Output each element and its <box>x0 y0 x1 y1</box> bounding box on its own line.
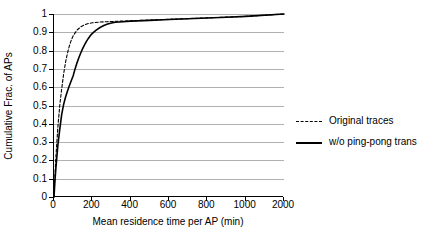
y-axis-tick-label-text: 0.3 <box>0 137 47 147</box>
legend-item: w/o ping-pong trans <box>296 131 421 152</box>
dashed-line-icon <box>296 121 322 122</box>
chart-figure: Cumulative Frac. of APs 00.10.20.30.40.5… <box>0 0 423 243</box>
x-axis-tick-label: 400 <box>121 200 138 210</box>
x-axis-tick-label: 800 <box>198 200 215 210</box>
x-axis-tick-mark <box>206 197 207 201</box>
x-axis-tick-mark <box>53 197 54 201</box>
x-axis-tick-mark <box>130 197 131 201</box>
x-axis-tick-label: 600 <box>160 200 177 210</box>
x-axis-tick-mark <box>245 197 246 201</box>
x-axis-tick-label: 2000 <box>272 200 294 210</box>
chart-legend: Original tracesw/o ping-pong trans <box>296 110 421 152</box>
legend-item-label: Original traces <box>329 115 393 126</box>
plot-area <box>53 14 283 197</box>
x-axis-tick-label: 1000 <box>234 200 256 210</box>
y-axis-tick-label-text: 0.8 <box>0 46 47 56</box>
y-axis-tick-label-text: 1 <box>0 9 47 19</box>
legend-line-swatch <box>296 116 322 126</box>
series-line-2 <box>54 14 284 197</box>
legend-line-swatch <box>296 137 322 147</box>
x-axis-tick-mark <box>91 197 92 201</box>
x-axis-tick-label: 0 <box>50 200 56 210</box>
y-axis-tick-label-text: 0.2 <box>0 155 47 165</box>
x-axis-tick-mark <box>168 197 169 201</box>
x-axis-tick-mark <box>283 197 284 201</box>
legend-item: Original traces <box>296 110 421 131</box>
x-axis-title: Mean residence time per AP (min) <box>53 216 283 227</box>
solid-line-icon <box>296 142 322 144</box>
y-axis-tick-label-text: 0.9 <box>0 27 47 37</box>
y-axis-tick-label-text: 0.4 <box>0 119 47 129</box>
y-axis-tick-label-text: 0.7 <box>0 64 47 74</box>
y-axis-tick-label-text: 0.1 <box>0 174 47 184</box>
legend-item-label: w/o ping-pong trans <box>329 136 417 147</box>
y-axis-tick-label-text: 0 <box>0 192 47 202</box>
series-line-1 <box>54 14 284 197</box>
y-axis-tick-label-text: 0.6 <box>0 82 47 92</box>
y-axis-tick-label-text: 0.5 <box>0 101 47 111</box>
data-curves <box>54 14 284 197</box>
x-axis-tick-label: 200 <box>83 200 100 210</box>
